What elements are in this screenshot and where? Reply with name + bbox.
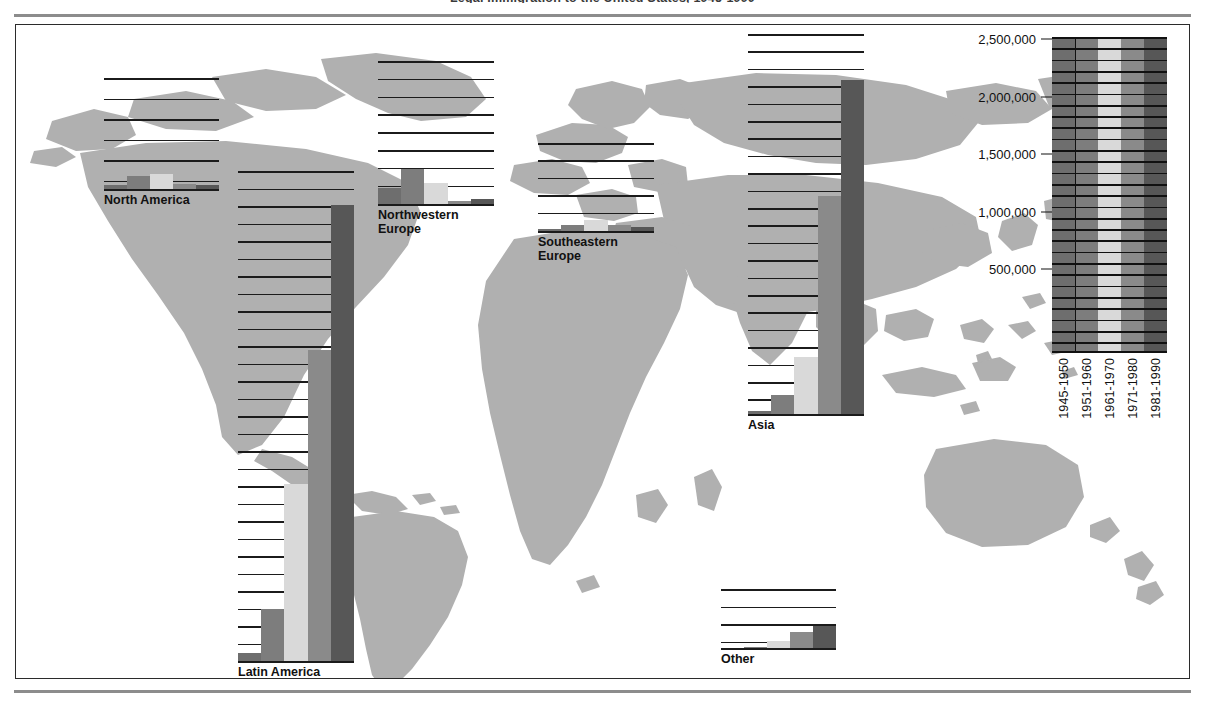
tick-2500000: 2,500,000 (978, 32, 1052, 47)
bottom-rule (14, 690, 1191, 693)
legend-plot: 2,500,000 2,000,000 1,500,000 1,000,000 … (1052, 37, 1167, 353)
baseline (378, 204, 494, 206)
panel-northwestern-europe: Northwestern Europe (378, 61, 494, 206)
bar-1961-1970 (424, 183, 447, 206)
baseline (748, 414, 864, 416)
bar-1951-1960 (261, 609, 284, 663)
legend-period-1945-1950: 1945-1950 (1052, 353, 1075, 419)
panel-plot (721, 589, 836, 650)
scale-legend: 2,500,000 2,000,000 1,500,000 1,000,000 … (1052, 37, 1167, 353)
bar-1961-1970 (794, 357, 817, 416)
tick-2000000: 2,000,000 (978, 89, 1052, 104)
panel-north-america: North America (104, 78, 219, 191)
figure-title: Legal Immigration to the United States, … (0, 0, 1205, 3)
bar-group (538, 143, 654, 233)
bar-1981-1990 (841, 80, 864, 416)
bar-group (748, 34, 864, 416)
tick-500000: 500,000 (989, 262, 1052, 277)
legend-period-1971-1980: 1971-1980 (1121, 353, 1144, 419)
bar-group (238, 171, 354, 663)
legend-ticks: 2,500,000 2,000,000 1,500,000 1,000,000 … (902, 37, 1052, 353)
bar-group (104, 78, 219, 191)
panel-label: Latin America (238, 665, 320, 679)
figure-frame: North America (15, 24, 1190, 679)
legend-period-labels: 1945-1950 1951-1960 1961-1970 1971-1980 … (1052, 353, 1167, 419)
top-rule (14, 14, 1191, 17)
panel-plot (104, 78, 219, 191)
bar-1961-1970 (284, 484, 307, 663)
legend-period-1961-1970: 1961-1970 (1098, 353, 1121, 419)
panel-plot (378, 61, 494, 206)
panel-latin-america: Latin America (238, 171, 354, 663)
legend-gridlines (1052, 37, 1167, 353)
bar-1951-1960 (771, 395, 794, 416)
tick-1500000: 1,500,000 (978, 147, 1052, 162)
legend-period-1951-1960: 1951-1960 (1075, 353, 1098, 419)
baseline (721, 648, 836, 650)
panel-southeastern-europe: Southeastern Europe (538, 143, 654, 233)
baseline (238, 661, 354, 663)
bar-1971-1980 (308, 350, 331, 663)
tick-label: 2,000,000 (978, 89, 1036, 104)
tick-label: 1,500,000 (978, 147, 1036, 162)
panel-other: Other (721, 589, 836, 650)
panel-label: Asia (748, 418, 774, 432)
tick-label: 1,000,000 (978, 204, 1036, 219)
bar-1951-1960 (401, 169, 424, 206)
panel-plot (748, 34, 864, 416)
bar-group (721, 589, 836, 650)
bar-group (378, 61, 494, 206)
bar-1981-1990 (331, 205, 354, 663)
panel-asia: Asia (748, 34, 864, 416)
baseline (104, 189, 219, 191)
tick-label: 500,000 (989, 262, 1036, 277)
panel-plot (538, 143, 654, 233)
panel-label: Northwestern Europe (378, 208, 494, 236)
bar-1981-1990 (813, 626, 836, 650)
panel-plot (238, 171, 354, 663)
panel-label: Southeastern Europe (538, 235, 654, 263)
panel-label: North America (104, 193, 190, 207)
bar-1971-1980 (818, 196, 841, 416)
tick-label: 2,500,000 (978, 32, 1036, 47)
legend-period-1981-1990: 1981-1990 (1144, 353, 1167, 419)
tick-1000000: 1,000,000 (978, 204, 1052, 219)
figure-root: Legal Immigration to the United States, … (0, 0, 1205, 721)
panel-label: Other (721, 652, 754, 666)
baseline (538, 231, 654, 233)
